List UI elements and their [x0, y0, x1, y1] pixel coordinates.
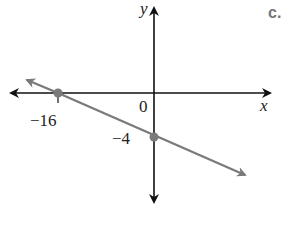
x-axis-label: x: [260, 97, 268, 114]
panel-label: c.: [268, 5, 281, 21]
y-intercept-label: −4: [112, 130, 130, 147]
graph-figure: y x 0 −16 −4 c.: [0, 0, 301, 226]
y-intercept-point: [150, 133, 159, 142]
y-axis-label: y: [140, 0, 148, 17]
x-intercept-label: −16: [30, 112, 57, 129]
x-intercept-point: [54, 89, 63, 98]
origin-label: 0: [139, 98, 148, 115]
